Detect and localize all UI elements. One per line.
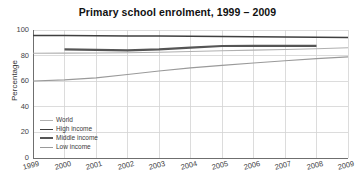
legend-label: High income [56,126,92,133]
chart-container: Primary school enrolment, 1999 – 2009 Pe… [0,0,355,182]
legend-item: High income [40,125,98,133]
legend-swatch-icon [40,137,53,139]
legend-label: Low income [56,144,91,151]
legend-swatch-icon [40,147,53,148]
legend-swatch-icon [40,120,53,121]
legend-label: World [56,117,73,124]
legend-swatch-icon [40,129,53,130]
legend-item: Low income [40,143,98,151]
legend-item: Middle income [40,134,98,142]
legend-label: Middle income [56,135,98,142]
legend-item: World [40,116,98,124]
plot-area [0,0,355,182]
legend: WorldHigh incomeMiddle incomeLow income [40,116,98,151]
